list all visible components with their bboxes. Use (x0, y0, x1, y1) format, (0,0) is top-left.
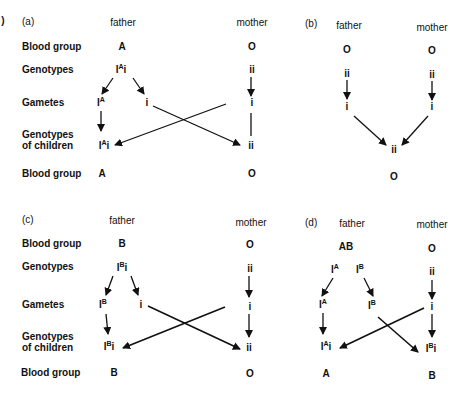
arrow-c-father-to-gamete-IB (106, 276, 113, 295)
arrow-d-IB-to-child-IBi (378, 317, 418, 352)
father-gamete-i-c: i (140, 300, 143, 310)
row-label-blood-group-children-c: Blood group (21, 368, 80, 379)
father-blood-group-b: O (343, 45, 351, 55)
arrow-c-IB-to-child (106, 314, 108, 334)
allele-i: i (124, 64, 127, 75)
father-gamete-IB-d: IB (368, 301, 376, 311)
arrow-b-mother-i-to-child (402, 116, 428, 145)
child-blood-group-O-a: O (248, 169, 256, 179)
allele-i: i (112, 341, 115, 352)
child-genotype-ii-c: ii (246, 343, 252, 353)
row-label-genotypes-c: Genotypes (22, 262, 74, 273)
father-blood-group-d: AB (339, 242, 353, 252)
row-label-blood-group-c: Blood group (22, 239, 81, 250)
panel-label-d: (d) (305, 218, 317, 229)
mother-genotype-d: ii (429, 267, 435, 277)
row-label-blood-group-children: Blood group (22, 169, 81, 180)
father-genotype-b: ii (344, 69, 350, 79)
corner-mark: ) (1, 16, 4, 26)
mother-blood-group-d: O (428, 244, 436, 254)
row-label-genotypes-children-line2: of children (22, 342, 73, 353)
allele-sup-A: A (100, 96, 105, 103)
arrow-c-father-i-to-child-ii (148, 306, 240, 349)
mother-header-c: mother (235, 218, 266, 228)
father-blood-group-a: A (118, 42, 125, 52)
mother-genotype-a: ii (249, 65, 255, 75)
mother-blood-group-a: O (248, 42, 256, 52)
row-label-blood-group: Blood group (22, 42, 81, 53)
arrow-c-mother-i-to-child-IBi (123, 307, 225, 348)
allele-sup-B: B (102, 298, 107, 305)
arrow-c-father-to-gamete-i (131, 276, 138, 295)
child-genotype-IAi-d: IAi (321, 342, 332, 352)
mother-genotype-b: ii (429, 70, 435, 80)
mother-gamete-a: i (251, 98, 254, 108)
row-label-genotypes-children-line2: of children (22, 140, 73, 151)
mother-blood-group-c: O (246, 240, 254, 250)
row-label-genotypes-children-line1: Genotypes (22, 331, 74, 342)
mother-genotype-c: ii (247, 264, 253, 274)
father-genotype-c: IBi (117, 263, 128, 273)
panel-label-c: (c) (22, 215, 34, 226)
father-gamete-IA-a: IA (97, 98, 105, 108)
panel-label-b: (b) (305, 19, 317, 30)
row-label-gametes: Gametes (22, 98, 64, 109)
mother-header-b: mother (416, 23, 447, 33)
mother-gamete-c: i (249, 302, 252, 312)
allele-i: i (125, 262, 128, 273)
child-blood-group-A-a: A (98, 169, 105, 179)
father-header-b: father (336, 21, 362, 31)
mother-gamete-d: i (431, 302, 434, 312)
father-genotype-a: IAi (116, 65, 127, 75)
mother-header-a: mother (236, 18, 267, 28)
child-blood-group-A-d: A (322, 369, 329, 379)
panel-label-a: (a) (22, 17, 34, 28)
allele-i: i (434, 343, 437, 354)
arrow-a-father-to-gamete-i (133, 78, 144, 94)
arrow-a-mother-i-to-child-IAi (115, 104, 226, 145)
allele-i: i (107, 140, 110, 151)
child-blood-group-B-d: B (428, 371, 435, 381)
father-allele-IA-d: IA (331, 265, 339, 275)
father-gamete-i-a: i (146, 98, 149, 108)
mother-blood-group-b: O (428, 46, 436, 56)
row-label-genotypes: Genotypes (22, 65, 74, 76)
child-genotype-IAi-a: IAi (99, 141, 110, 151)
father-header-c: father (109, 216, 135, 226)
child-blood-group-b: O (390, 172, 398, 182)
row-label-genotypes-children-line1: Genotypes (22, 129, 74, 140)
child-genotype-b: ii (391, 145, 397, 155)
father-header-d: father (339, 219, 365, 229)
row-label-gametes-c: Gametes (22, 300, 64, 311)
arrow-d-father-IA-to-gamete (322, 278, 333, 296)
child-blood-group-O-c: O (246, 369, 254, 379)
child-blood-group-B-c: B (110, 368, 117, 378)
mother-gamete-b: i (431, 102, 434, 112)
arrow-a-father-to-gamete-IA (102, 78, 113, 94)
arrow-d-father-IB-to-gamete (364, 278, 373, 296)
allele-i: i (329, 341, 332, 352)
child-genotype-ii-a: ii (248, 141, 254, 151)
arrow-d-mother-i-to-child-IAi (340, 308, 424, 348)
child-genotype-IBi-c: IBi (104, 342, 115, 352)
child-genotype-IBi-d: IBi (426, 344, 437, 354)
father-gamete-IA-d: IA (319, 300, 327, 310)
allele-sup-A: A (322, 298, 327, 305)
allele-sup-B: B (359, 263, 364, 270)
father-header-a: father (110, 18, 136, 28)
row-label-genotypes-children-c: Genotypes of children (22, 332, 74, 353)
arrow-b-father-i-to-child (354, 116, 386, 145)
father-gamete-IB-c: IB (99, 300, 107, 310)
mother-header-d: mother (416, 220, 447, 230)
father-blood-group-c: B (118, 239, 125, 249)
allele-sup-A: A (334, 263, 339, 270)
allele-sup-B: B (371, 299, 376, 306)
row-label-genotypes-children: Genotypes of children (22, 130, 74, 151)
father-allele-IB-d: IB (356, 265, 364, 275)
father-gamete-b: i (346, 102, 349, 112)
